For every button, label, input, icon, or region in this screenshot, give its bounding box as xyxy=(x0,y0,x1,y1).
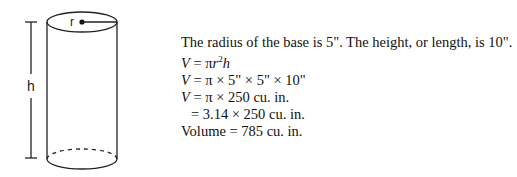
height-label: h xyxy=(27,78,35,94)
volume-formula: V = πr2h xyxy=(181,51,512,72)
cylinder xyxy=(47,12,117,169)
pi-substitution-step: = 3.14 × 250 cu. in. xyxy=(181,106,512,123)
radius-label: r xyxy=(70,15,74,29)
problem-statement: The radius of the base is 5". The height… xyxy=(181,34,512,51)
volume-calculation: The radius of the base is 5". The height… xyxy=(181,34,512,140)
simplification-step: V = π × 250 cu. in. xyxy=(181,89,512,106)
volume-result: Volume = 785 cu. in. xyxy=(181,123,512,140)
cylinder-diagram: h r xyxy=(0,0,140,177)
substitution-step: V = π × 5" × 5" × 10" xyxy=(181,72,512,89)
